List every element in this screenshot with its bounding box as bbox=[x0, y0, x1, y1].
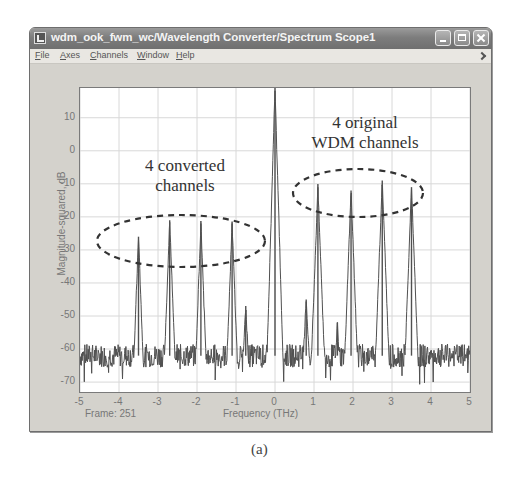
x-tick-label: 1 bbox=[303, 396, 323, 407]
x-tick-label: 4 bbox=[420, 396, 440, 407]
menu-channels[interactable]: Channels bbox=[90, 50, 128, 60]
x-axis-label: Frequency (THz) bbox=[223, 408, 298, 419]
title-bar[interactable]: wdm_ook_fwm_wc/Wavelength Converter/Spec… bbox=[30, 28, 491, 49]
scope-window: wdm_ook_fwm_wc/Wavelength Converter/Spec… bbox=[29, 27, 492, 432]
annotation-converted-channels: 4 converted channels bbox=[120, 156, 250, 196]
y-tick-label: -50 bbox=[51, 309, 75, 320]
annotation-original-channels: 4 original WDM channels bbox=[290, 113, 440, 153]
menu-bar: File Axes Channels Window Help bbox=[30, 49, 491, 64]
window-title: wdm_ook_fwm_wc/Wavelength Converter/Spec… bbox=[51, 31, 375, 43]
close-button[interactable] bbox=[473, 30, 489, 46]
maximize-button[interactable] bbox=[454, 30, 470, 46]
menu-window[interactable]: Window bbox=[137, 50, 169, 60]
y-axis-label: Magnitude-squared, dB bbox=[56, 149, 67, 299]
x-tick-label: 2 bbox=[342, 396, 362, 407]
frame-counter: Frame: 251 bbox=[85, 408, 136, 419]
figure-caption: (a) bbox=[251, 441, 268, 458]
x-tick-label: 3 bbox=[381, 396, 401, 407]
x-tick-label: -3 bbox=[147, 396, 167, 407]
x-tick-label: -1 bbox=[225, 396, 245, 407]
y-tick-label: -70 bbox=[51, 375, 75, 386]
x-tick-label: -5 bbox=[69, 396, 89, 407]
x-tick-label: 5 bbox=[459, 396, 479, 407]
x-tick-label: -4 bbox=[108, 396, 128, 407]
dock-arrow-icon[interactable] bbox=[478, 52, 486, 60]
menu-help[interactable]: Help bbox=[176, 50, 195, 60]
x-tick-label: 0 bbox=[264, 396, 284, 407]
y-tick-label: 10 bbox=[51, 111, 75, 122]
menu-file[interactable]: File bbox=[35, 50, 50, 60]
y-tick-label: -60 bbox=[51, 342, 75, 353]
matlab-app-icon bbox=[34, 32, 46, 44]
x-tick-label: -2 bbox=[186, 396, 206, 407]
menu-axes[interactable]: Axes bbox=[60, 50, 80, 60]
minimize-button[interactable] bbox=[435, 30, 451, 46]
